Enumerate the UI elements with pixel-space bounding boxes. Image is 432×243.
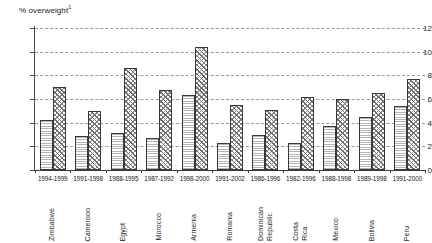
country-label: Zimbabwe <box>35 186 70 241</box>
country-label: Dominican Republic <box>248 186 283 241</box>
country-label: Romania <box>212 186 247 241</box>
country-label-text: Zimbabwe <box>48 208 57 241</box>
bar-later-survey <box>301 97 314 170</box>
period-label: 1989-1998 <box>354 175 389 182</box>
bar-earlier-survey <box>217 143 230 170</box>
y-tick-label-10: 10 <box>410 47 432 56</box>
axis-separator <box>35 170 36 173</box>
bar-earlier-survey <box>359 117 372 170</box>
country-label-text: Romania <box>226 212 235 241</box>
bar-earlier-survey <box>146 138 159 170</box>
y-axis-title-text: % overweight <box>19 6 68 15</box>
bar-earlier-survey <box>252 135 265 171</box>
bar-group <box>248 28 283 170</box>
period-label: 1991-1998 <box>70 175 105 182</box>
y-tick-label-6: 6 <box>410 95 432 104</box>
axis-separator <box>319 170 320 173</box>
bar-group <box>141 28 176 170</box>
y-tick-mark-10 <box>30 52 34 53</box>
period-label: 1987-1992 <box>141 175 176 182</box>
bar-later-survey <box>88 111 101 170</box>
bar-earlier-survey <box>394 106 407 170</box>
y-axis-title: % overweight1 <box>19 6 71 15</box>
bar-group <box>283 28 318 170</box>
period-label: 1982-1996 <box>283 175 318 182</box>
bar-group <box>106 28 141 170</box>
bar-earlier-survey <box>111 133 124 170</box>
country-label: Armenia <box>177 186 212 241</box>
country-label: Egypt <box>106 186 141 241</box>
bar-later-survey <box>336 99 349 170</box>
bar-later-survey <box>265 110 278 170</box>
y-tick-mark-0 <box>30 170 34 171</box>
period-label: 1988-1995 <box>106 175 141 182</box>
axis-separator <box>425 170 426 173</box>
country-label: Bolivia <box>354 186 389 241</box>
axis-separator <box>141 170 142 173</box>
y-tick-mark-6 <box>30 99 34 100</box>
country-label-text: Mexico <box>332 218 341 241</box>
country-label-text: Dominican Republic <box>257 207 274 241</box>
country-label: Mexico <box>319 186 354 241</box>
country-label-text: Morocco <box>155 213 164 241</box>
period-labels: 1994-19991991-19981988-19951987-19921998… <box>35 175 425 182</box>
axis-separator <box>248 170 249 173</box>
bar-earlier-survey <box>323 126 336 170</box>
country-label-text: Cameroon <box>84 208 93 241</box>
country-label-text: Egypt <box>119 223 128 241</box>
country-label-text: Peru <box>403 226 412 241</box>
bar-group <box>212 28 247 170</box>
country-label: Costa Rica <box>283 186 318 241</box>
axis-separator <box>212 170 213 173</box>
bar-group <box>70 28 105 170</box>
country-label-text: Bolivia <box>368 220 377 241</box>
axis-separator <box>177 170 178 173</box>
bar-earlier-survey <box>288 143 301 170</box>
period-label: 1994-1999 <box>35 175 70 182</box>
bar-later-survey <box>195 47 208 170</box>
y-axis-title-footnote-marker: 1 <box>68 4 71 10</box>
country-label: Cameroon <box>70 186 105 241</box>
bar-groups <box>35 28 425 170</box>
bar-later-survey <box>372 93 385 170</box>
axis-separator <box>70 170 71 173</box>
bar-earlier-survey <box>40 120 53 170</box>
y-tick-mark-4 <box>30 123 34 124</box>
axis-separator <box>106 170 107 173</box>
country-label-text: Armenia <box>190 214 199 241</box>
country-labels: ZimbabweCameroonEgyptMoroccoArmeniaRoman… <box>35 186 425 241</box>
axis-separator <box>283 170 284 173</box>
bar-earlier-survey <box>75 136 88 170</box>
overweight-bar-chart: % overweight1 1994-19991991-19981988-199… <box>0 0 432 243</box>
y-tick-label-4: 4 <box>410 118 432 127</box>
country-label-text: Costa Rica <box>292 222 309 241</box>
period-label: 1991-2002 <box>212 175 247 182</box>
bar-earlier-survey <box>182 95 195 170</box>
period-label: 1998-2000 <box>177 175 212 182</box>
country-label: Peru <box>390 186 425 241</box>
period-label: 1986-1996 <box>248 175 283 182</box>
x-axis-line <box>34 170 425 171</box>
axis-separator <box>390 170 391 173</box>
bar-later-survey <box>124 68 137 170</box>
y-tick-mark-2 <box>30 146 34 147</box>
bar-group <box>35 28 70 170</box>
y-tick-label-0: 0 <box>410 166 432 175</box>
country-label: Morocco <box>141 186 176 241</box>
bar-group <box>177 28 212 170</box>
bar-group <box>354 28 389 170</box>
y-tick-label-8: 8 <box>410 71 432 80</box>
y-tick-label-2: 2 <box>410 142 432 151</box>
bar-later-survey <box>230 105 243 170</box>
bar-later-survey <box>159 90 172 170</box>
period-label: 1991-2000 <box>390 175 425 182</box>
axis-separator <box>354 170 355 173</box>
bar-later-survey <box>53 87 66 170</box>
period-label: 1988-1998 <box>319 175 354 182</box>
bar-group <box>319 28 354 170</box>
y-tick-mark-12 <box>30 28 34 29</box>
y-tick-mark-8 <box>30 75 34 76</box>
y-tick-label-12: 12 <box>410 24 432 33</box>
